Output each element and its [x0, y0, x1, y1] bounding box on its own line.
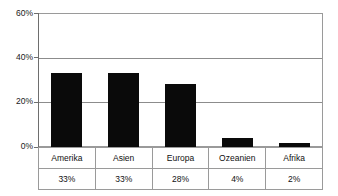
table-cell-category-amerika: Amerika — [39, 148, 96, 169]
table-cell-value-asien: 33% — [95, 169, 152, 190]
table-cell-value-ozeanien: 4% — [209, 169, 266, 190]
table-cell-category-asien: Asien — [95, 148, 152, 169]
bar-europa — [165, 84, 195, 147]
chart-title — [8, 0, 188, 2]
bar-ozeanien — [222, 138, 252, 147]
y-tick-label-20: 20% — [3, 97, 33, 106]
table-cell-category-ozeanien: Ozeanien — [209, 148, 266, 169]
bar-asien — [108, 73, 138, 147]
table-row-categories: Amerika Asien Europa Ozeanien Afrika — [39, 148, 323, 169]
bar-slot-amerika — [38, 13, 95, 147]
bar-slot-asien — [95, 13, 152, 147]
bars-layer — [38, 13, 323, 147]
table-cell-category-afrika: Afrika — [266, 148, 323, 169]
table-cell-value-afrika: 2% — [266, 169, 323, 190]
table-cell-value-amerika: 33% — [39, 169, 96, 190]
bar-slot-afrika — [266, 13, 323, 147]
y-tick-label-40: 40% — [3, 53, 33, 62]
table-row-values: 33% 33% 28% 4% 2% — [39, 169, 323, 190]
bar-slot-ozeanien — [209, 13, 266, 147]
y-axis-tick-labels: 60% 40% 20% 0% — [0, 0, 33, 196]
bar-chart-figure: 60% 40% 20% 0% Amerika Asien Europa — [0, 0, 338, 196]
bar-slot-europa — [152, 13, 209, 147]
data-table: Amerika Asien Europa Ozeanien Afrika 33%… — [38, 147, 323, 190]
table-cell-category-europa: Europa — [152, 148, 209, 169]
y-tick-label-60: 60% — [3, 9, 33, 18]
y-tick-label-0: 0% — [3, 142, 33, 151]
bar-amerika — [51, 73, 81, 147]
table-cell-value-europa: 28% — [152, 169, 209, 190]
